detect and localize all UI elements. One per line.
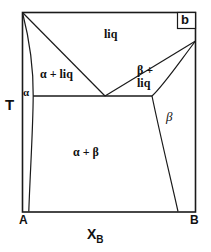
region-label-alpha-plus-beta: α + β — [73, 146, 99, 158]
x-axis-endpoint-b: B — [190, 214, 199, 226]
x-axis-endpoint-a: A — [19, 214, 28, 226]
x-axis-label-subscript: B — [96, 234, 103, 245]
beta-solvus-right-curve — [152, 96, 178, 212]
beta-solidus-curve — [152, 41, 196, 96]
region-label-beta: β — [166, 110, 172, 123]
region-label-alpha-plus-liquid: α + liq — [40, 68, 73, 80]
region-label-alpha: α — [23, 87, 29, 98]
alpha-liquidus-line — [23, 13, 106, 97]
region-label-liquid: liq — [104, 28, 117, 40]
panel-tag-label: b — [181, 13, 189, 26]
region-label-beta-plus-liquid: β + liq — [137, 64, 153, 89]
alpha-solvus-left-curve — [23, 13, 34, 212]
phase-diagram-figure: b liq α + liq β + liq β α + β α T XB A B — [0, 0, 211, 252]
x-axis-label: XB — [87, 227, 104, 245]
region-label-beta-plus-liquid-line1: β + — [137, 63, 153, 77]
region-label-beta-plus-liquid-line2: liq — [137, 77, 153, 89]
x-axis-label-main: X — [87, 226, 96, 242]
y-axis-label: T — [5, 97, 14, 112]
